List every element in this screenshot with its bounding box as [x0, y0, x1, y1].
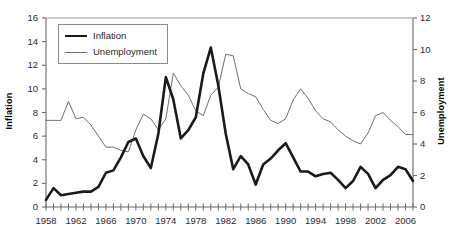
y-tick-label-right: 6 — [420, 107, 442, 118]
x-tick-label: 1994 — [299, 215, 333, 226]
chart-legend: Inflation Unemployment — [58, 24, 168, 64]
y-tick-label-left: 6 — [16, 130, 38, 141]
legend-label-unemployment: Unemployment — [93, 47, 157, 57]
x-tick-label: 1970 — [119, 215, 153, 226]
chart-figure: Inflation Unemployment 02468101214160246… — [0, 0, 458, 246]
x-tick-label: 1982 — [209, 215, 243, 226]
x-tick-label: 1958 — [29, 215, 63, 226]
x-tick-label: 1978 — [179, 215, 213, 226]
y-tick-label-left: 0 — [16, 201, 38, 212]
y-tick-label-right: 2 — [420, 170, 442, 181]
legend-swatch-inflation — [65, 35, 87, 37]
x-tick-label: 1998 — [329, 215, 363, 226]
legend-item-inflation: Inflation — [65, 29, 126, 43]
x-tick-label: 1962 — [59, 215, 93, 226]
y-tick-label-left: 4 — [16, 154, 38, 165]
x-tick-label: 1990 — [269, 215, 303, 226]
y-tick-label-left: 14 — [16, 36, 38, 47]
y-tick-label-right: 10 — [420, 44, 442, 55]
series-line-unemployment — [46, 54, 413, 152]
x-tick-label: 2002 — [359, 215, 393, 226]
y-tick-label-left: 10 — [16, 83, 38, 94]
y-tick-label-left: 2 — [16, 177, 38, 188]
y-tick-label-left: 8 — [16, 107, 38, 118]
legend-swatch-unemployment — [65, 52, 87, 53]
series-line-inflation — [46, 48, 413, 200]
y-tick-label-left: 16 — [16, 12, 38, 23]
legend-label-inflation: Inflation — [93, 31, 126, 41]
x-tick-label: 1974 — [149, 215, 183, 226]
x-tick-label: 1986 — [239, 215, 273, 226]
y-tick-label-right: 4 — [420, 138, 442, 149]
y-tick-label-left: 12 — [16, 59, 38, 70]
x-tick-label: 1966 — [89, 215, 123, 226]
legend-item-unemployment: Unemployment — [65, 45, 157, 59]
y-tick-label-right: 0 — [420, 201, 442, 212]
y-tick-label-right: 12 — [420, 12, 442, 23]
x-tick-label: 2006 — [389, 215, 423, 226]
y-tick-label-right: 8 — [420, 75, 442, 86]
